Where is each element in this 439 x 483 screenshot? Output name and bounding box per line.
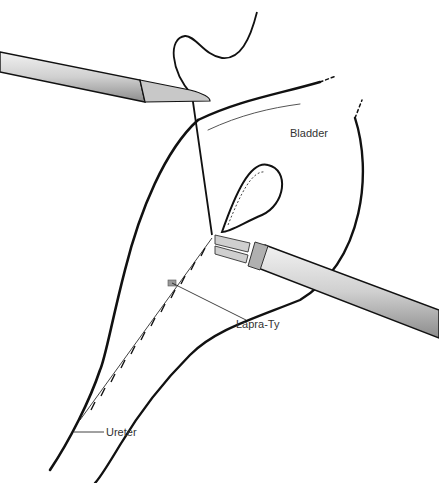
label-ureter: Ureter — [106, 426, 137, 438]
needle-driver-left — [0, 52, 210, 102]
label-bladder: Bladder — [290, 127, 328, 139]
illustration-drawing — [0, 0, 439, 483]
label-lapra-ty: Lapra-Ty — [236, 318, 279, 330]
lapra-ty-leader — [172, 283, 246, 320]
surgical-illustration: Bladder Lapra-Ty Ureter — [0, 0, 439, 483]
suture-stitches — [80, 238, 212, 420]
bladder-opening — [222, 165, 282, 232]
